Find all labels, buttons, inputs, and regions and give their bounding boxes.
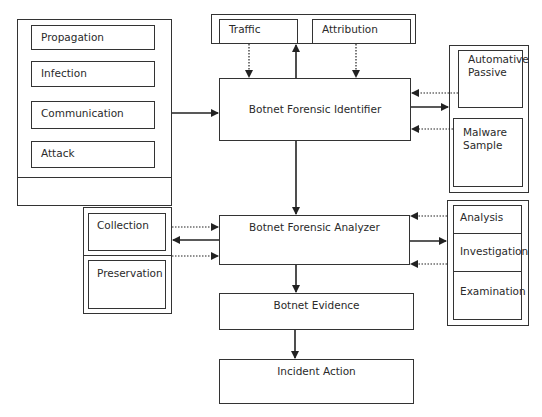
stage-communication-box: Communication bbox=[31, 101, 155, 129]
source-traffic-label: Traffic bbox=[229, 23, 261, 36]
stage-communication-label: Communication bbox=[41, 107, 124, 120]
forensic-analyzer-label: Botnet Forensic Analyzer bbox=[220, 221, 409, 234]
detection-malware-sample-label: Malware Sample bbox=[463, 126, 507, 152]
analysis-label: Analysis bbox=[460, 211, 503, 224]
analysis-divider-1 bbox=[453, 233, 522, 234]
botnet-evidence-label: Botnet Evidence bbox=[220, 299, 413, 312]
forensic-analyzer-box: Botnet Forensic Analyzer bbox=[219, 215, 410, 265]
detection-automative-passive-label: Automative Passive bbox=[468, 53, 529, 79]
source-traffic-box: Traffic bbox=[219, 19, 298, 44]
stage-propagation-label: Propagation bbox=[41, 31, 104, 44]
handling-collection-label: Collection bbox=[97, 219, 149, 232]
forensic-identifier-label: Botnet Forensic Identifier bbox=[220, 103, 410, 116]
detection-automative-passive-box: Automative Passive bbox=[458, 50, 523, 108]
handling-preservation-label: Preservation bbox=[97, 267, 163, 280]
handling-preservation-box: Preservation bbox=[88, 260, 166, 309]
stage-attack-label: Attack bbox=[41, 147, 75, 160]
forensic-identifier-box: Botnet Forensic Identifier bbox=[219, 78, 411, 141]
detection-malware-sample-box: Malware Sample bbox=[453, 118, 523, 187]
source-attribution-box: Attribution bbox=[312, 19, 411, 44]
incident-action-box: Incident Action bbox=[219, 359, 414, 404]
examination-label: Examination bbox=[460, 285, 526, 298]
handling-divider bbox=[83, 255, 172, 256]
stage-propagation-box: Propagation bbox=[31, 25, 155, 50]
stage-attack-box: Attack bbox=[31, 141, 155, 168]
stage-infection-label: Infection bbox=[41, 67, 87, 80]
source-attribution-label: Attribution bbox=[322, 23, 378, 36]
analysis-divider-2 bbox=[453, 271, 522, 272]
stages-divider bbox=[17, 177, 172, 178]
stage-infection-box: Infection bbox=[31, 61, 155, 87]
botnet-evidence-box: Botnet Evidence bbox=[219, 293, 414, 330]
incident-action-label: Incident Action bbox=[220, 365, 413, 378]
handling-collection-box: Collection bbox=[88, 213, 166, 251]
investigation-label: Investigation bbox=[460, 245, 528, 258]
